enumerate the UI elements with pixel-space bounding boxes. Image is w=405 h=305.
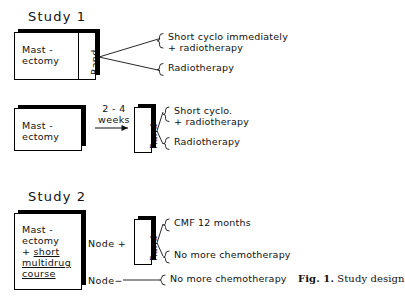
outcome-braces [0,0,390,305]
figure-canvas: Study 1 Mast - ectomy Rand Short cyclo i… [0,0,390,305]
